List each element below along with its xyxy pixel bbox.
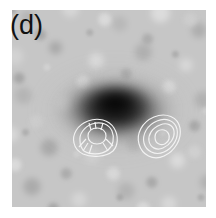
figure-panel: (d) [0, 0, 216, 218]
contour-component-left [74, 119, 118, 156]
contour-component-right [138, 115, 180, 158]
panel-label: (d) [10, 12, 43, 39]
